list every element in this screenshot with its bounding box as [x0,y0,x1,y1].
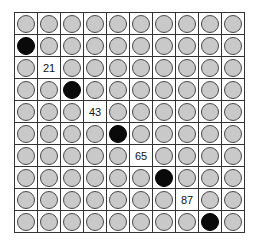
grid-cell [107,211,130,233]
black-dot-icon [63,81,81,99]
grid-cell [61,211,84,233]
grid-cell [153,167,176,189]
grid-cell [199,145,222,167]
gray-dot-icon [86,81,104,99]
grid-cell [130,13,153,35]
gray-dot-icon [155,15,173,33]
grid-cell: 87 [176,189,199,211]
gray-dot-icon [224,81,242,99]
cell-number: 43 [89,106,101,118]
grid-cell [107,101,130,123]
gray-dot-icon [40,103,58,121]
grid-cell [107,123,130,145]
cell-number: 65 [135,150,147,162]
black-dot-icon [109,125,127,143]
gray-dot-icon [224,37,242,55]
grid-cell [130,189,153,211]
grid-cell [107,13,130,35]
grid-cell [222,189,245,211]
grid-cell [176,57,199,79]
grid-cell [38,189,61,211]
gray-dot-icon [132,37,150,55]
grid-cell [38,13,61,35]
gray-dot-icon [155,37,173,55]
grid-cell [199,101,222,123]
gray-dot-icon [155,191,173,209]
gray-dot-icon [109,37,127,55]
gray-dot-icon [109,81,127,99]
black-dot-icon [17,37,35,55]
cell-number: 87 [181,194,193,206]
grid-cell [199,211,222,233]
grid-cell [15,145,38,167]
dot-grid: 21436587 [14,12,245,233]
gray-dot-icon [109,213,127,231]
gray-dot-icon [224,213,242,231]
grid-cell [130,35,153,57]
grid-cell [61,189,84,211]
grid-cell [199,79,222,101]
grid-cell [84,57,107,79]
grid-cell [38,167,61,189]
gray-dot-icon [132,125,150,143]
grid-cell [222,13,245,35]
grid-cell [84,123,107,145]
gray-dot-icon [155,213,173,231]
grid-cell [61,123,84,145]
grid-cell [199,123,222,145]
gray-dot-icon [201,147,219,165]
gray-dot-icon [86,15,104,33]
gray-dot-icon [201,169,219,187]
gray-dot-icon [201,125,219,143]
gray-dot-icon [224,59,242,77]
grid-cell [153,189,176,211]
grid-cell [153,101,176,123]
grid-cell [84,189,107,211]
gray-dot-icon [17,81,35,99]
gray-dot-icon [132,15,150,33]
grid-cell [61,79,84,101]
grid-cell [199,167,222,189]
gray-dot-icon [155,81,173,99]
gray-dot-icon [178,169,196,187]
gray-dot-icon [86,59,104,77]
gray-dot-icon [86,147,104,165]
gray-dot-icon [17,103,35,121]
gray-dot-icon [178,81,196,99]
gray-dot-icon [40,169,58,187]
grid-cell [222,57,245,79]
gray-dot-icon [86,125,104,143]
gray-dot-icon [86,37,104,55]
gray-dot-icon [201,37,219,55]
grid-cell [84,145,107,167]
grid-cell [199,13,222,35]
gray-dot-icon [109,191,127,209]
grid-cell [15,189,38,211]
grid-cell [61,57,84,79]
grid-cell [176,35,199,57]
grid-cell [15,13,38,35]
gray-dot-icon [201,103,219,121]
grid-cell [176,79,199,101]
grid-cell [15,57,38,79]
gray-dot-icon [132,213,150,231]
gray-dot-icon [178,213,196,231]
gray-dot-icon [109,59,127,77]
grid-cell [61,13,84,35]
grid-cell [222,35,245,57]
gray-dot-icon [178,125,196,143]
grid-cell [61,145,84,167]
gray-dot-icon [132,81,150,99]
grid-cell [61,167,84,189]
grid-cell [38,145,61,167]
gray-dot-icon [201,59,219,77]
grid-cell [38,123,61,145]
grid-cell [176,123,199,145]
grid-cell [153,35,176,57]
gray-dot-icon [224,125,242,143]
gray-dot-icon [40,191,58,209]
gray-dot-icon [63,191,81,209]
grid-cell [84,79,107,101]
grid-cell [15,35,38,57]
gray-dot-icon [17,169,35,187]
